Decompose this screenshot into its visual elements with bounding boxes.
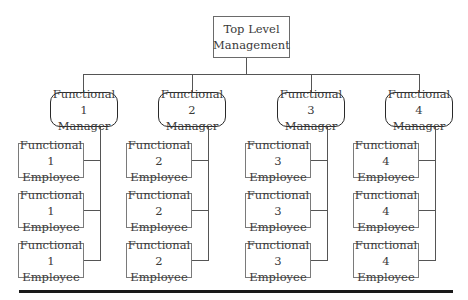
bottom-rule-divider: [19, 290, 453, 293]
manager-label-line1: Functional 1: [51, 86, 117, 118]
branch-f4-1: [419, 160, 435, 161]
employee-label-line2: Employee: [249, 269, 306, 285]
employee-box-f2-1: Functional 2 Employee: [126, 143, 192, 178]
employee-label-line1: Functional 1: [19, 187, 83, 219]
branch-f1-1: [84, 160, 100, 161]
employee-label-line1: Functional 4: [354, 237, 418, 269]
connector-top-down: [246, 58, 247, 74]
employee-label-line1: Functional 4: [354, 137, 418, 169]
employee-box-f2-2: Functional 2 Employee: [126, 193, 192, 228]
employee-label-line1: Functional 2: [127, 187, 191, 219]
employee-box-f4-1: Functional 4 Employee: [353, 143, 419, 178]
employee-box-f2-3: Functional 2 Employee: [126, 243, 192, 278]
manager-label-line2: Manager: [58, 118, 111, 134]
branch-f2-2: [192, 210, 208, 211]
manager-label-line2: Manager: [393, 118, 446, 134]
employee-label-line2: Employee: [22, 269, 79, 285]
employee-label-line2: Employee: [22, 169, 79, 185]
branch-f3-3: [311, 260, 328, 261]
spine-f1: [100, 127, 101, 260]
employee-label-line1: Functional 3: [246, 237, 310, 269]
spine-f4: [435, 127, 436, 260]
manager-box-f1: Functional 1 Manager: [50, 92, 118, 127]
manager-box-f2: Functional 2 Manager: [158, 92, 226, 127]
manager-label-line1: Functional 2: [159, 86, 225, 118]
employee-label-line1: Functional 1: [19, 137, 83, 169]
employee-box-f1-2: Functional 1 Employee: [18, 193, 84, 228]
employee-box-f1-1: Functional 1 Employee: [18, 143, 84, 178]
manager-box-f3: Functional 3 Manager: [277, 92, 345, 127]
manager-label-line2: Manager: [166, 118, 219, 134]
employee-label-line2: Employee: [130, 269, 187, 285]
top-management-box: Top Level Management: [213, 16, 290, 58]
employee-label-line1: Functional 1: [19, 237, 83, 269]
employee-label-line2: Employee: [249, 219, 306, 235]
employee-label-line1: Functional 2: [127, 237, 191, 269]
branch-f4-2: [419, 210, 435, 211]
employee-label-line2: Employee: [22, 219, 79, 235]
branch-f3-1: [311, 160, 327, 161]
manager-label-line2: Manager: [285, 118, 338, 134]
branch-f4-3: [419, 260, 436, 261]
employee-label-line1: Functional 4: [354, 187, 418, 219]
employee-box-f3-2: Functional 3 Employee: [245, 193, 311, 228]
employee-label-line2: Employee: [357, 269, 414, 285]
spine-f2: [208, 127, 209, 260]
employee-label-line2: Employee: [130, 169, 187, 185]
connector-horizontal-bus: [83, 74, 420, 75]
employee-box-f1-3: Functional 1 Employee: [18, 243, 84, 278]
employee-box-f4-3: Functional 4 Employee: [353, 243, 419, 278]
manager-label-line1: Functional 3: [278, 86, 344, 118]
employee-box-f3-3: Functional 3 Employee: [245, 243, 311, 278]
top-management-line2: Management: [213, 37, 290, 53]
manager-label-line1: Functional 4: [386, 86, 452, 118]
employee-label-line2: Employee: [357, 169, 414, 185]
branch-f3-2: [311, 210, 327, 211]
branch-f1-3: [84, 260, 101, 261]
employee-label-line1: Functional 3: [246, 137, 310, 169]
employee-label-line1: Functional 2: [127, 137, 191, 169]
branch-f2-3: [192, 260, 209, 261]
top-management-line1: Top Level: [223, 21, 279, 37]
branch-f1-2: [84, 210, 100, 211]
manager-box-f4: Functional 4 Manager: [385, 92, 453, 127]
employee-label-line2: Employee: [357, 219, 414, 235]
employee-label-line2: Employee: [249, 169, 306, 185]
spine-f3: [327, 127, 328, 260]
employee-label-line1: Functional 3: [246, 187, 310, 219]
employee-label-line2: Employee: [130, 219, 187, 235]
employee-box-f3-1: Functional 3 Employee: [245, 143, 311, 178]
employee-box-f4-2: Functional 4 Employee: [353, 193, 419, 228]
branch-f2-1: [192, 160, 208, 161]
